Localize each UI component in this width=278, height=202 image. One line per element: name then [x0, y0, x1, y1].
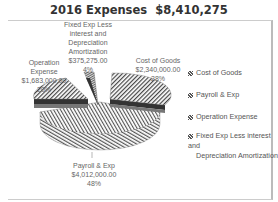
legend-swatch-icon	[188, 93, 193, 98]
legend-label: Fixed Exp Less interest and	[188, 131, 271, 150]
legend-swatch-icon	[188, 115, 193, 120]
legend-label: Operation Expense	[196, 112, 258, 121]
label-cost-of-goods: Cost of Goods $2,340,000.00 28%	[128, 56, 188, 83]
label-name: Fixed Exp Less	[60, 20, 116, 29]
label-fixed-exp: Fixed Exp Less interest and Depreciation…	[60, 20, 116, 74]
label-name: Depreciation	[60, 38, 116, 47]
legend-label: Depreciation Amortization	[188, 151, 278, 161]
legend-item-fixed-exp[interactable]: Fixed Exp Less interest and Depreciation…	[188, 131, 278, 161]
label-name: Cost of Goods	[128, 56, 188, 65]
legend-item-cost-of-goods[interactable]: Cost of Goods	[188, 68, 242, 78]
label-value: $375,275.00	[60, 56, 116, 65]
label-name: interest and	[60, 29, 116, 38]
legend-item-operation-expense[interactable]: Operation Expense	[188, 112, 258, 122]
label-pct: 48%	[64, 179, 124, 188]
label-pct: 28%	[128, 74, 188, 83]
legend-swatch-icon	[188, 134, 193, 139]
label-pct: 4%	[60, 65, 116, 74]
pie-chart	[0, 0, 278, 202]
label-name: Amortization	[60, 47, 116, 56]
legend-item-payroll[interactable]: Payroll & Exp	[188, 90, 239, 100]
label-value: $2,340,000.00	[128, 65, 188, 74]
label-pct: 20%	[16, 85, 72, 94]
label-value: $1,683,000.00	[16, 76, 72, 85]
label-value: $4,012,000.00	[64, 170, 124, 179]
legend-label: Payroll & Exp	[196, 90, 239, 99]
label-payroll: Payroll & Exp $4,012,000.00 48%	[64, 161, 124, 188]
legend-swatch-icon	[188, 71, 193, 76]
label-name: Payroll & Exp	[64, 161, 124, 170]
legend-label: Cost of Goods	[196, 68, 242, 77]
